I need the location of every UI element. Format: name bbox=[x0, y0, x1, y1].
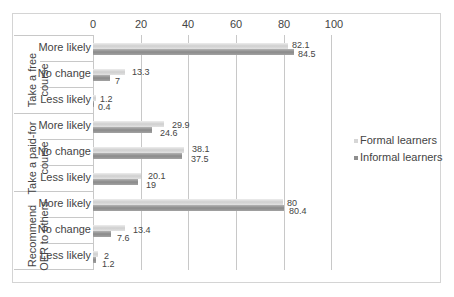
value-label-informal: 80.4 bbox=[289, 207, 307, 216]
value-label-informal: 84.5 bbox=[298, 50, 316, 59]
bar-informal bbox=[93, 231, 111, 237]
group-label-line: Recommend bbox=[26, 196, 38, 276]
row-label: Less likely bbox=[40, 171, 91, 183]
bar-informal bbox=[93, 205, 284, 211]
legend-label: Formal learners bbox=[360, 134, 437, 146]
legend-label: Informal learners bbox=[360, 151, 443, 163]
gridline bbox=[236, 35, 237, 270]
category-divider bbox=[14, 35, 93, 36]
value-label-informal: 19 bbox=[146, 181, 156, 190]
value-label-informal: 7 bbox=[115, 77, 120, 86]
group-label-line: Take a free bbox=[26, 40, 38, 120]
gridline bbox=[331, 35, 332, 270]
bar-informal bbox=[93, 153, 182, 159]
value-label-formal: 13.4 bbox=[133, 226, 151, 235]
legend-swatch-icon bbox=[354, 139, 358, 143]
legend-swatch-icon bbox=[354, 156, 358, 160]
bar-informal bbox=[93, 49, 294, 55]
value-label-informal: 37.5 bbox=[191, 155, 209, 164]
value-label-informal: 7.6 bbox=[117, 234, 130, 243]
row-label: More likely bbox=[38, 41, 91, 53]
bar-informal bbox=[93, 179, 138, 185]
legend-item-formal: Formal learners bbox=[354, 134, 437, 146]
row-label: More likely bbox=[38, 119, 91, 131]
x-tick-40: 40 bbox=[182, 18, 194, 30]
row-label: No change bbox=[38, 67, 91, 79]
bar-informal bbox=[93, 75, 110, 81]
value-label-formal: 38.1 bbox=[192, 145, 210, 154]
gridline bbox=[188, 35, 189, 270]
row-label: More likely bbox=[38, 197, 91, 209]
row-label: Less likely bbox=[40, 249, 91, 261]
group-label-line: Take a paid-for bbox=[26, 118, 38, 198]
value-label-informal: 24.6 bbox=[160, 129, 178, 138]
bar-informal bbox=[93, 101, 94, 107]
value-label-informal: 0.4 bbox=[98, 103, 111, 112]
row-label: No change bbox=[38, 145, 91, 157]
x-tick-100: 100 bbox=[325, 18, 343, 30]
legend-item-informal: Informal learners bbox=[354, 151, 443, 163]
row-label: Less likely bbox=[40, 93, 91, 105]
value-label-formal: 13.3 bbox=[132, 68, 150, 77]
gridline bbox=[284, 35, 285, 270]
row-label: No change bbox=[38, 223, 91, 235]
x-tick-80: 80 bbox=[278, 18, 290, 30]
bar-informal bbox=[93, 127, 152, 133]
value-label-informal: 1.2 bbox=[102, 260, 115, 269]
x-tick-20: 20 bbox=[135, 18, 147, 30]
x-tick-0: 0 bbox=[90, 18, 96, 30]
bar-informal bbox=[93, 257, 96, 263]
x-tick-60: 60 bbox=[230, 18, 242, 30]
